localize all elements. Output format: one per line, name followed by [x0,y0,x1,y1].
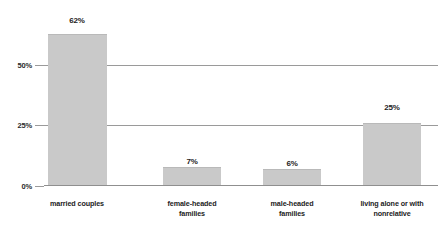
plot-area [44,14,438,186]
category-label-line: families [242,209,342,219]
y-axis-tick-label-0: 0% [0,182,32,191]
category-label-line: female-headed [142,199,242,209]
category-label-female-headed-families: female-headed families [142,199,242,218]
category-label-line: living alone or with [342,199,442,209]
y-axis-tick-label-25: 25% [0,121,32,130]
y-axis-tick-mark-50 [35,65,44,66]
bar-value-label-married-couples: 62% [69,16,84,25]
bar-value-label-male-headed-families: 6% [286,159,297,168]
x-axis-baseline [44,185,438,186]
bar-chart: 50% 25% 0% 62% 7% 6% 25% married couples… [0,0,446,234]
category-label-living-alone-or-nonrelative: living alone or with nonrelative [342,199,442,218]
bar-living-alone-or-nonrelative [363,123,421,185]
y-axis-tick-mark-25 [35,125,44,126]
category-label-line: male-headed [242,199,342,209]
bar-male-headed-families [263,169,321,185]
category-label-line: families [142,209,242,219]
bar-married-couples [48,34,107,186]
category-label-male-headed-families: male-headed families [242,199,342,218]
y-axis-tick-label-50: 50% [0,60,32,69]
bar-value-label-living-alone-or-nonrelative: 25% [384,103,399,112]
category-label-line: married couples [27,199,127,209]
bar-female-headed-families [163,167,221,185]
category-label-line: nonrelative [342,209,442,219]
y-axis-tick-mark-0 [35,186,44,187]
bar-value-label-female-headed-families: 7% [186,157,197,166]
category-label-married-couples: married couples [27,199,127,209]
